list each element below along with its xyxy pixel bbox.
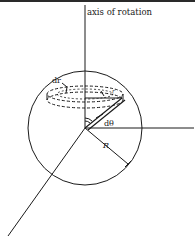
dr-label: dr <box>52 76 61 85</box>
dtheta-pointer <box>96 114 103 118</box>
r-label: r <box>112 87 116 94</box>
dr-pointer <box>62 83 67 93</box>
axis-label: axis of rotation <box>87 7 153 17</box>
dtheta-label: dθ <box>104 119 114 128</box>
theta-arc <box>85 118 92 121</box>
sphere-diagram: axis of rotation dr dθ R r <box>0 0 195 240</box>
R-label: R <box>102 141 109 150</box>
y-axis <box>8 128 85 236</box>
theta-arc-inner <box>85 121 90 123</box>
r-pointer <box>101 91 104 96</box>
